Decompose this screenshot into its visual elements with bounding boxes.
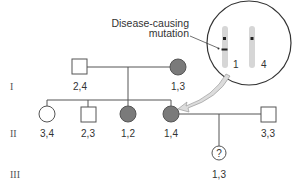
genotype-label: 2,3 [81, 128, 95, 139]
chromosome-1-label: 1 [233, 59, 239, 70]
callout-line-2: mutation [149, 27, 189, 39]
genotype-label: 1,2 [121, 128, 135, 139]
generation-3: ? 1,3 [212, 146, 226, 180]
unknown-status-icon: ? [216, 148, 222, 159]
generation-label-2: II [10, 128, 17, 139]
female-unaffected-symbol [39, 106, 55, 122]
chromosome-inset: 1 4 [207, 1, 291, 85]
generation-label-1: I [10, 81, 13, 92]
chromosome-1 [222, 26, 228, 68]
genotype-label: 1,3 [171, 81, 185, 92]
genotype-label: 2,4 [73, 81, 87, 92]
chromosome-4-marker [251, 37, 254, 40]
chromosome-1-marker [223, 37, 226, 40]
pedigree-diagram: 1 4 Disease-causing mutation 2,4 1,3 3,4… [0, 0, 293, 186]
generation-1: 2,4 1,3 [72, 59, 186, 100]
chromosome-4-label: 4 [261, 59, 267, 70]
genotype-label: 3,3 [261, 128, 275, 139]
genotype-label: 1,3 [212, 169, 226, 180]
generation-label-3: III [10, 169, 20, 180]
generation-2: 3,4 2,3 1,2 1,4 3,3 [39, 100, 276, 146]
male-unaffected-symbol [72, 59, 87, 74]
genotype-label: 3,4 [40, 128, 54, 139]
male-unaffected-symbol [81, 107, 96, 122]
male-unaffected-symbol [261, 107, 276, 122]
genotype-label: 1,4 [164, 128, 178, 139]
callout-pointer-dot [218, 48, 220, 50]
chromosome-4 [249, 26, 255, 68]
female-affected-symbol [120, 106, 136, 122]
female-affected-symbol [170, 59, 186, 75]
female-affected-symbol [163, 106, 179, 122]
mutation-band [222, 49, 228, 51]
curved-arrow-icon [178, 74, 230, 112]
